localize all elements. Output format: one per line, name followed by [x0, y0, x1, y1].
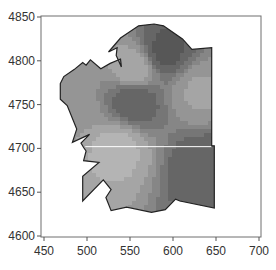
- raster-cell: [184, 141, 189, 146]
- raster-cell: [96, 101, 101, 106]
- raster-cell: [136, 177, 141, 182]
- raster-cell: [208, 177, 213, 182]
- raster-cell: [104, 69, 109, 74]
- raster-cell: [168, 161, 173, 166]
- raster-cell: [128, 109, 133, 114]
- raster-cell: [132, 53, 137, 58]
- raster-cell: [152, 37, 157, 42]
- raster-cell: [156, 53, 161, 58]
- raster-cell: [132, 197, 137, 202]
- raster-cell: [88, 153, 93, 158]
- raster-cell: [160, 81, 165, 86]
- raster-cell: [136, 181, 141, 186]
- raster-cell: [148, 137, 153, 142]
- raster-cell: [72, 105, 77, 110]
- raster-cell: [128, 177, 133, 182]
- raster-cell: [92, 89, 97, 94]
- raster-cell: [124, 153, 129, 158]
- raster-cell: [120, 69, 125, 74]
- raster-cell: [152, 149, 157, 154]
- raster-cell: [172, 129, 177, 134]
- raster-cell: [184, 145, 189, 150]
- raster-cell: [96, 157, 101, 162]
- raster-cell: [200, 125, 205, 130]
- raster-cell: [168, 109, 173, 114]
- raster-cell: [192, 73, 197, 78]
- raster-cell: [196, 57, 201, 62]
- raster-cell: [136, 93, 141, 98]
- raster-cell: [124, 77, 129, 82]
- raster-cell: [92, 129, 97, 134]
- raster-cell: [192, 165, 197, 170]
- raster-cell: [192, 89, 197, 94]
- raster-cell: [204, 89, 209, 94]
- raster-cell: [160, 105, 165, 110]
- raster-cell: [172, 97, 177, 102]
- raster-cell: [148, 93, 153, 98]
- raster-cell: [112, 117, 117, 122]
- raster-cell: [116, 113, 121, 118]
- raster-cell: [160, 197, 165, 202]
- raster-cell: [168, 197, 173, 202]
- raster-cell: [80, 129, 85, 134]
- raster-cell: [120, 169, 125, 174]
- raster-cell: [120, 93, 125, 98]
- raster-cell: [164, 133, 169, 138]
- y-tick-label: 4800: [8, 54, 35, 68]
- raster-cell: [104, 109, 109, 114]
- raster-cell: [80, 93, 85, 98]
- raster-cell: [96, 109, 101, 114]
- raster-cell: [80, 85, 85, 90]
- raster-cell: [156, 181, 161, 186]
- raster-cell: [112, 193, 117, 198]
- raster-cell: [172, 173, 177, 178]
- raster-cell: [84, 77, 89, 82]
- raster-cell: [96, 173, 101, 178]
- raster-cell: [112, 89, 117, 94]
- raster-cell: [88, 137, 93, 142]
- raster-cell: [104, 105, 109, 110]
- raster-cell: [152, 41, 157, 46]
- raster-cell: [100, 93, 105, 98]
- raster-cell: [132, 181, 137, 186]
- raster-cell: [152, 33, 157, 38]
- raster-cell: [168, 53, 173, 58]
- raster-cell: [180, 77, 185, 82]
- raster-cell: [104, 145, 109, 150]
- raster-cell: [116, 161, 121, 166]
- raster-cell: [116, 177, 121, 182]
- raster-cell: [136, 101, 141, 106]
- raster-cell: [156, 141, 161, 146]
- raster-cell: [120, 105, 125, 110]
- raster-cell: [132, 81, 137, 86]
- raster-cell: [72, 85, 77, 90]
- raster-cell: [136, 65, 141, 70]
- raster-cell: [136, 77, 141, 82]
- raster-cell: [136, 85, 141, 90]
- raster-cell: [100, 149, 105, 154]
- raster-cell: [188, 77, 193, 82]
- raster-cell: [72, 101, 77, 106]
- raster-cell: [180, 165, 185, 170]
- raster-cell: [176, 65, 181, 70]
- raster-cell: [152, 29, 157, 34]
- raster-cell: [176, 77, 181, 82]
- raster-cell: [180, 153, 185, 158]
- raster-cell: [140, 85, 145, 90]
- raster-cell: [152, 89, 157, 94]
- raster-cell: [148, 37, 153, 42]
- raster-cell: [148, 185, 153, 190]
- raster-cell: [164, 125, 169, 130]
- raster-cell: [124, 73, 129, 78]
- raster-cell: [120, 49, 125, 54]
- raster-cell: [124, 105, 129, 110]
- raster-cell: [160, 189, 165, 194]
- raster-cell: [148, 109, 153, 114]
- raster-cell: [132, 57, 137, 62]
- raster-cell: [184, 185, 189, 190]
- raster-cell: [208, 181, 213, 186]
- raster-cell: [84, 101, 89, 106]
- raster-cell: [164, 201, 169, 206]
- raster-cell: [196, 61, 201, 66]
- raster-cell: [124, 93, 129, 98]
